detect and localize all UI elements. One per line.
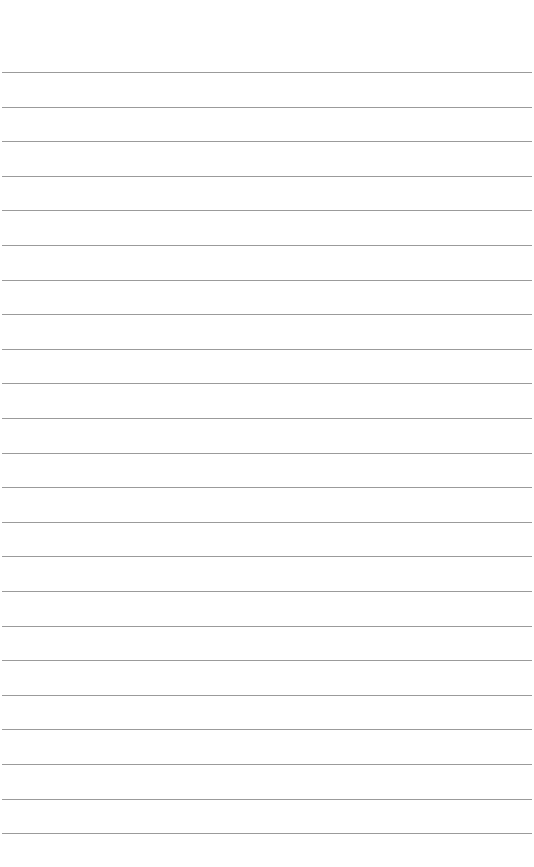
ruled-line (2, 72, 532, 73)
ruled-line (2, 660, 532, 661)
ruled-line (2, 764, 532, 765)
ruled-line (2, 729, 532, 730)
ruled-line (2, 210, 532, 211)
ruled-line (2, 453, 532, 454)
ruled-line (2, 314, 532, 315)
ruled-line (2, 418, 532, 419)
ruled-line (2, 556, 532, 557)
ruled-line (2, 695, 532, 696)
lined-paper-page (0, 0, 534, 867)
ruled-line (2, 280, 532, 281)
ruled-line (2, 176, 532, 177)
ruled-line (2, 591, 532, 592)
ruled-line (2, 626, 532, 627)
ruled-line (2, 799, 532, 800)
ruled-line (2, 245, 532, 246)
ruled-line (2, 383, 532, 384)
ruled-line (2, 141, 532, 142)
ruled-line (2, 522, 532, 523)
ruled-line (2, 487, 532, 488)
ruled-line (2, 349, 532, 350)
ruled-line (2, 107, 532, 108)
ruled-line (2, 833, 532, 834)
